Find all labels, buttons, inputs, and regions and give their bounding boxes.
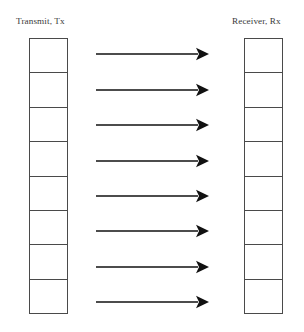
arrow-layer — [0, 0, 304, 332]
transmit-receive-diagram: Transmit, Tx Receiver, Rx — [0, 0, 304, 332]
transmission-arrow — [0, 0, 304, 332]
